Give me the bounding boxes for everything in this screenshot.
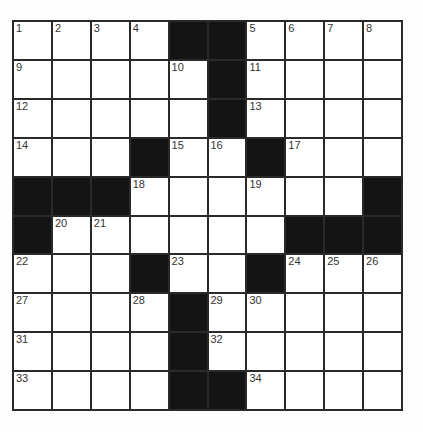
clue-number: 1	[16, 23, 22, 34]
answer-cell[interactable]: 13	[247, 100, 284, 137]
answer-cell[interactable]: 33	[14, 372, 51, 409]
answer-cell[interactable]	[170, 100, 207, 137]
clue-number: 24	[288, 256, 300, 267]
answer-cell[interactable]: 19	[247, 178, 284, 215]
answer-cell[interactable]	[286, 178, 323, 215]
answer-cell[interactable]	[53, 333, 90, 370]
block-cell	[247, 255, 284, 292]
answer-cell[interactable]	[209, 217, 246, 254]
answer-cell[interactable]	[92, 294, 129, 331]
answer-cell[interactable]: 14	[14, 139, 51, 176]
answer-cell[interactable]: 1	[14, 22, 51, 59]
answer-cell[interactable]	[364, 100, 401, 137]
answer-cell[interactable]: 10	[170, 61, 207, 98]
clue-number: 11	[249, 62, 260, 73]
answer-cell[interactable]: 25	[325, 255, 362, 292]
answer-cell[interactable]: 26	[364, 255, 401, 292]
answer-cell[interactable]	[131, 217, 168, 254]
answer-cell[interactable]	[286, 294, 323, 331]
answer-cell[interactable]: 8	[364, 22, 401, 59]
answer-cell[interactable]	[92, 100, 129, 137]
answer-cell[interactable]	[364, 294, 401, 331]
answer-cell[interactable]	[131, 333, 168, 370]
answer-cell[interactable]	[92, 61, 129, 98]
answer-cell[interactable]	[209, 178, 246, 215]
clue-number: 16	[211, 140, 223, 151]
block-cell	[247, 139, 284, 176]
answer-cell[interactable]: 23	[170, 255, 207, 292]
answer-cell[interactable]: 12	[14, 100, 51, 137]
answer-cell[interactable]	[286, 61, 323, 98]
answer-cell[interactable]	[53, 255, 90, 292]
answer-cell[interactable]	[53, 294, 90, 331]
answer-cell[interactable]	[325, 372, 362, 409]
block-cell	[170, 372, 207, 409]
answer-cell[interactable]	[325, 294, 362, 331]
answer-cell[interactable]: 16	[209, 139, 246, 176]
clue-number: 23	[172, 256, 184, 267]
answer-cell[interactable]	[325, 139, 362, 176]
answer-cell[interactable]: 22	[14, 255, 51, 292]
answer-cell[interactable]: 20	[53, 217, 90, 254]
answer-cell[interactable]	[92, 333, 129, 370]
answer-cell[interactable]	[364, 139, 401, 176]
clue-number: 32	[211, 334, 223, 345]
answer-cell[interactable]	[92, 255, 129, 292]
answer-cell[interactable]	[286, 100, 323, 137]
answer-cell[interactable]	[170, 217, 207, 254]
answer-cell[interactable]	[53, 61, 90, 98]
answer-cell[interactable]: 31	[14, 333, 51, 370]
answer-cell[interactable]: 17	[286, 139, 323, 176]
answer-cell[interactable]	[170, 178, 207, 215]
clue-number: 33	[16, 373, 28, 384]
answer-cell[interactable]: 2	[53, 22, 90, 59]
answer-cell[interactable]	[364, 372, 401, 409]
answer-cell[interactable]: 29	[209, 294, 246, 331]
answer-cell[interactable]: 27	[14, 294, 51, 331]
block-cell	[14, 178, 51, 215]
block-cell	[364, 217, 401, 254]
answer-cell[interactable]	[286, 333, 323, 370]
answer-cell[interactable]: 6	[286, 22, 323, 59]
answer-cell[interactable]: 28	[131, 294, 168, 331]
answer-cell[interactable]	[131, 372, 168, 409]
answer-cell[interactable]: 18	[131, 178, 168, 215]
answer-cell[interactable]: 11	[247, 61, 284, 98]
answer-cell[interactable]: 7	[325, 22, 362, 59]
answer-cell[interactable]: 4	[131, 22, 168, 59]
answer-cell[interactable]: 21	[92, 217, 129, 254]
answer-cell[interactable]	[247, 217, 284, 254]
answer-cell[interactable]	[325, 61, 362, 98]
clue-number: 17	[288, 140, 300, 151]
answer-cell[interactable]	[325, 333, 362, 370]
answer-cell[interactable]	[209, 255, 246, 292]
answer-cell[interactable]	[286, 372, 323, 409]
answer-cell[interactable]	[53, 372, 90, 409]
answer-cell[interactable]	[92, 139, 129, 176]
answer-cell[interactable]: 9	[14, 61, 51, 98]
block-cell	[92, 178, 129, 215]
answer-cell[interactable]: 24	[286, 255, 323, 292]
answer-cell[interactable]	[325, 100, 362, 137]
clue-number: 3	[94, 23, 100, 34]
answer-cell[interactable]: 30	[247, 294, 284, 331]
answer-cell[interactable]	[131, 100, 168, 137]
answer-cell[interactable]	[364, 61, 401, 98]
clue-number: 6	[288, 23, 294, 34]
answer-cell[interactable]	[53, 100, 90, 137]
clue-number: 21	[94, 218, 106, 229]
answer-cell[interactable]	[364, 333, 401, 370]
answer-cell[interactable]: 5	[247, 22, 284, 59]
answer-cell[interactable]	[131, 61, 168, 98]
block-cell	[170, 294, 207, 331]
answer-cell[interactable]: 3	[92, 22, 129, 59]
answer-cell[interactable]	[247, 333, 284, 370]
answer-cell[interactable]: 32	[209, 333, 246, 370]
answer-cell[interactable]: 15	[170, 139, 207, 176]
answer-cell[interactable]	[53, 139, 90, 176]
answer-cell[interactable]	[92, 372, 129, 409]
answer-cell[interactable]	[325, 178, 362, 215]
answer-cell[interactable]: 34	[247, 372, 284, 409]
block-cell	[325, 217, 362, 254]
clue-number: 10	[172, 62, 184, 73]
